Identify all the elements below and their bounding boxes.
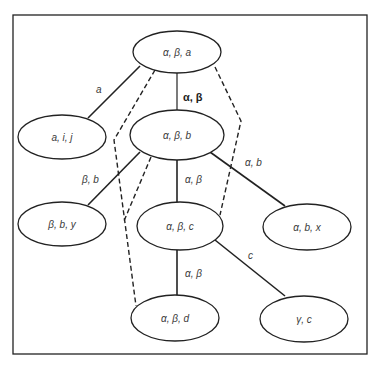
edge-label: α, β [185,268,202,279]
node-n_aba: α, β, a [133,31,221,73]
dashed-link-dash_top_to_d [114,70,155,306]
node-n_abb: α, β, b [130,110,224,160]
edge-label: α, β [185,174,202,185]
node-label: α, β, a [163,47,192,58]
node-n_abx: α, b, x [263,204,351,250]
node-n_abc: α, β, c [137,202,223,250]
node-label: α, β, b [163,130,192,141]
node-n_aij: a, i, j [18,115,106,159]
edge-label: α, β [183,91,203,103]
edge-line [215,240,285,296]
junction-tree-diagram: aα, ββ, bα, βα, bα, βc α, β, aa, i, jα, … [0,0,381,369]
tree-nodes: α, β, aa, i, jα, β, bβ, b, yα, β, cα, b,… [18,31,351,342]
node-n_abd: α, β, d [131,295,219,341]
edge-label: α, b [245,157,262,168]
node-label: α, β, c [166,221,194,232]
node-label: α, β, d [161,313,190,324]
tree-edges: aα, ββ, bα, βα, bα, βc [81,66,285,296]
edge-label: β, b [81,174,99,185]
edge-label: c [248,250,253,261]
node-label: γ, c [296,314,312,325]
node-n_gc: γ, c [260,296,348,342]
edge-label: a [96,84,102,95]
node-n_bby: β, b, y [18,202,106,246]
node-label: β, b, y [47,219,76,230]
node-label: a, i, j [51,132,73,143]
node-label: α, b, x [293,222,321,233]
